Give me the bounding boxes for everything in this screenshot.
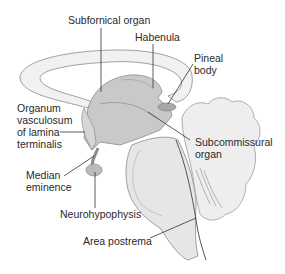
label-neurohypophysis: Neurohypophysis [60,208,141,220]
label-ovlt-line4: terminalis [17,138,62,150]
label-median-eminence-line1: Median [26,169,60,181]
label-ovlt-line2: vasculosum [17,114,72,126]
label-subcommissural-line1: Subcommissural [195,136,273,148]
label-pineal-line1: Pineal [194,52,223,64]
label-median-eminence-line2: eminence [26,181,72,193]
label-area-postrema: Area postrema [83,235,152,247]
label-ovlt-line3: of lamina [17,126,60,138]
diagram-canvas: Subfornical organ Habenula Pineal body O… [0,0,285,274]
neurohypophysis-shape [86,164,102,176]
pineal-body-shape [158,103,176,111]
label-subfornical-organ: Subfornical organ [68,14,150,26]
label-ovlt-line1: Organum [17,102,61,114]
label-subcommissural-line2: organ [195,148,222,160]
label-habenula: Habenula [135,31,180,43]
label-pineal-line2: body [194,64,217,76]
